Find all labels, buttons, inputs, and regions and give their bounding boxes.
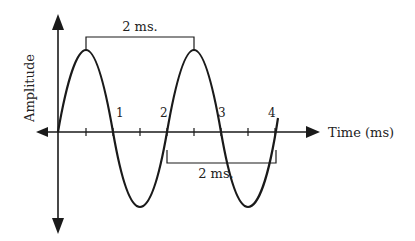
crossing-label-1: 1 (116, 106, 124, 120)
amplitude-axis (52, 14, 64, 234)
crossing-label-4: 4 (268, 106, 276, 120)
y-axis-label: Amplitude (22, 54, 37, 123)
period-bracket-top (86, 37, 194, 50)
period-bracket-bottom (167, 150, 276, 163)
crossing-label-3: 3 (218, 106, 226, 120)
arrow-left-icon (36, 127, 48, 137)
arrow-up-icon (52, 14, 64, 30)
period-label-bottom: 2 ms. (198, 166, 234, 181)
arrow-right-icon (306, 126, 320, 138)
arrow-down-icon (52, 218, 64, 234)
period-label-top: 2 ms. (122, 19, 158, 34)
x-axis-label: Time (ms) (328, 125, 394, 140)
sine-wave (58, 50, 278, 207)
sine-wave-diagram: 2 ms. 2 ms. 1 2 3 4 Time (ms) Amplitude (0, 0, 415, 241)
crossing-label-2: 2 (160, 106, 168, 120)
